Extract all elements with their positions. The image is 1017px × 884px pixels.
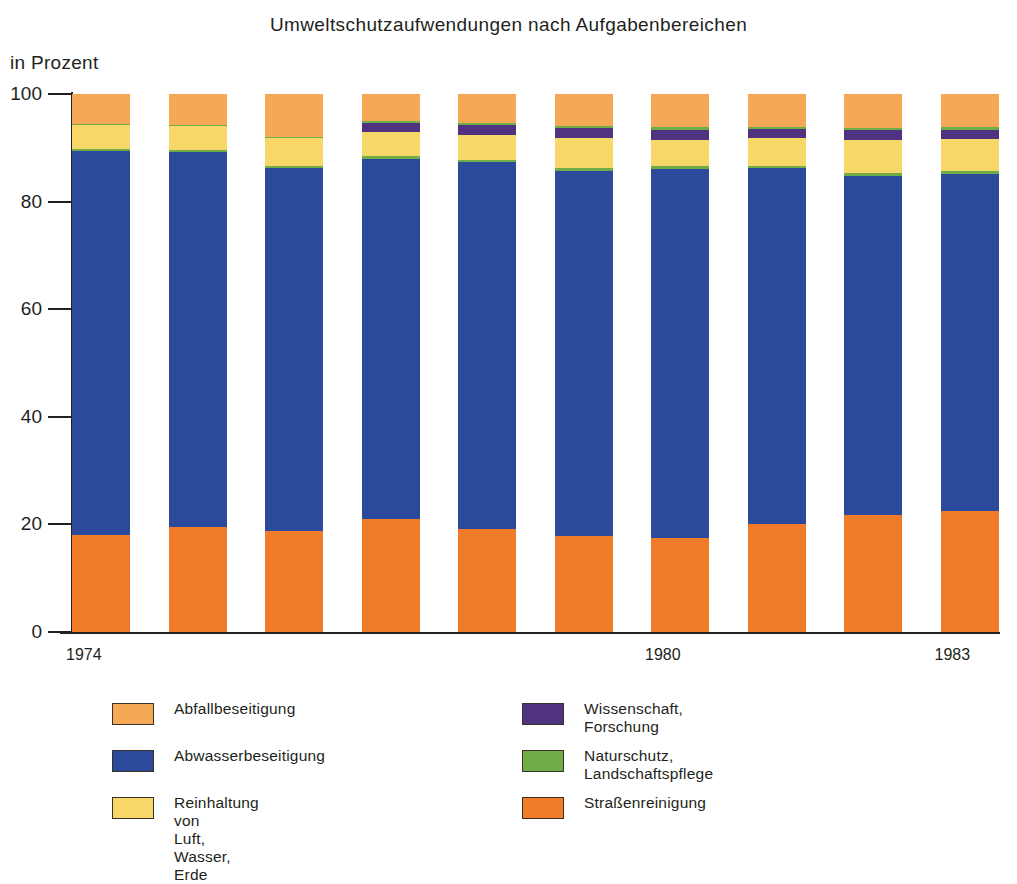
legend-swatch-abwasser [112,750,154,772]
bar-segment-abfall [555,94,613,126]
bar-1982 [844,94,902,632]
y-axis-tick-label: 40 [21,406,42,428]
bar-segment-naturschutz2 [651,127,709,129]
bar-segment-abfall [169,94,227,125]
bar-segment-abfall [265,94,323,137]
legend-label: Wissenschaft, Forschung [584,700,683,736]
y-axis-tick-label: 60 [21,298,42,320]
legend-label: Reinhaltung von Luft, Wasser, Erde [174,794,259,884]
bar-segment-abwasser [72,151,130,535]
y-axis-tick [48,631,72,633]
bar-segment-reinhaltung [362,132,420,157]
bar-segment-strassenreinigung [651,538,709,632]
x-axis-line [60,632,1000,634]
bar-segment-wissenschaft [555,128,613,138]
bar-segment-reinhaltung [458,135,516,160]
legend-label: Abwasserbeseitigung [174,747,325,765]
bar-1981 [748,94,806,632]
bar-segment-reinhaltung [265,138,323,166]
bar-segment-abfall [458,94,516,123]
y-axis-tick-label: 20 [21,513,42,535]
legend-swatch-strassenreinigung [522,797,564,819]
bar-segment-abwasser [169,152,227,527]
bar-segment-strassenreinigung [458,529,516,632]
bar-segment-wissenschaft [458,125,516,135]
y-axis-tick [48,201,72,203]
legend-label: Naturschutz, Landschaftspflege [584,747,713,783]
bar-segment-naturschutz2 [748,127,806,129]
bar-1979 [555,94,613,632]
bar-segment-reinhaltung [941,139,999,171]
bar-1975 [169,94,227,632]
bar-segment-abfall [941,94,999,127]
y-axis-tick-label: 100 [10,83,42,105]
bar-segment-abfall [362,94,420,121]
bar-segment-strassenreinigung [169,527,227,632]
bar-segment-reinhaltung [169,126,227,150]
bar-segment-naturschutz2 [844,128,902,130]
bar-segment-naturschutz [941,171,999,174]
bar-segment-reinhaltung [72,125,130,149]
bar-segment-abwasser [555,171,613,536]
bar-segment-abfall [651,94,709,127]
bar-segment-naturschutz [555,168,613,171]
bar-segment-naturschutz [651,166,709,169]
bar-segment-naturschutz [458,160,516,163]
y-axis-tick [48,523,72,525]
plot-area [72,94,973,632]
bar-segment-naturschutz2 [458,123,516,125]
x-axis-tick-label-1983: 1983 [935,646,971,664]
bar-segment-naturschutz [265,166,323,168]
bar-1980 [651,94,709,632]
bar-segment-wissenschaft [651,130,709,141]
y-axis-tick [48,308,72,310]
y-axis-tick-label: 80 [21,191,42,213]
legend-swatch-reinhaltung [112,797,154,819]
bar-segment-abwasser [265,168,323,531]
legend-swatch-wissenschaft [522,703,564,725]
bar-segment-naturschutz2 [555,126,613,128]
bar-1978 [458,94,516,632]
legend-swatch-abfall [112,703,154,725]
bar-1977 [362,94,420,632]
x-axis-tick-label-1980: 1980 [645,646,681,664]
bar-segment-strassenreinigung [748,524,806,632]
y-axis-tick-label: 0 [31,621,42,643]
bar-segment-wissenschaft [844,130,902,140]
legend-label: Abfallbeseitigung [174,700,295,718]
bar-segment-abfall [844,94,902,128]
bar-segment-strassenreinigung [362,519,420,632]
legend-label: Straßenreinigung [584,794,706,812]
bar-segment-abwasser [748,168,806,524]
bar-segment-abwasser [458,162,516,529]
bar-segment-reinhaltung [748,138,806,165]
bar-segment-reinhaltung [651,140,709,166]
bar-segment-reinhaltung [555,138,613,168]
bar-segment-strassenreinigung [72,535,130,632]
bar-segment-reinhaltung [844,140,902,173]
y-axis-unit-label: in Prozent [10,52,99,74]
bar-segment-wissenschaft [941,130,999,139]
y-axis-tick [48,93,72,95]
bar-1976 [265,94,323,632]
bar-segment-abwasser [362,159,420,519]
bar-segment-naturschutz2 [941,127,999,130]
x-axis-tick-label-1974: 1974 [66,646,102,664]
bar-segment-abfall [748,94,806,127]
bar-segment-abwasser [941,174,999,511]
bar-segment-naturschutz [748,166,806,169]
bar-1974 [72,94,130,632]
bar-segment-abwasser [651,169,709,538]
bar-1983 [941,94,999,632]
chart-legend: AbfallbeseitigungAbwasserbeseitigungRein… [112,700,972,840]
bar-segment-wissenschaft [362,123,420,132]
legend-swatch-naturschutz [522,750,564,772]
bar-segment-abwasser [844,176,902,515]
bar-segment-naturschutz [844,173,902,176]
bar-segment-wissenschaft [748,129,806,138]
bar-segment-abfall [72,94,130,124]
bar-segment-strassenreinigung [555,536,613,632]
bar-segment-naturschutz [362,156,420,158]
bar-segment-strassenreinigung [265,531,323,632]
